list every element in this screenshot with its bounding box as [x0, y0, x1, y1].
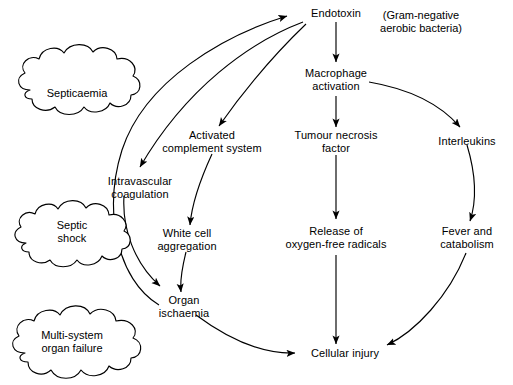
cloud-label-septic-shock: Septic shock	[57, 219, 88, 245]
edge-macrophage-to-interleukins	[369, 82, 460, 127]
node-macrophage-activation: Macrophage activation	[305, 67, 367, 92]
node-activated-complement-line1: Activated	[162, 129, 262, 142]
cloud-label-septicaemia: Septicaemia	[47, 87, 108, 100]
node-macrophage-activation-line1: Macrophage	[305, 67, 367, 80]
node-endotoxin-line1: Endotoxin	[311, 7, 361, 20]
node-white-cell-aggregation-line1: White cell	[157, 227, 216, 240]
node-radicals-line1: Release of	[285, 225, 386, 238]
node-macrophage-activation-line2: activation	[305, 79, 367, 92]
node-release-of-oxygen-free-radicals: Release of oxygen-free radicals	[285, 225, 386, 250]
caption-line1: (Gram-negative	[380, 9, 462, 22]
cloud-septic-shock-line2: shock	[57, 232, 88, 245]
node-cellular-injury: Cellular injury	[311, 347, 379, 360]
node-cellular-injury-line1: Cellular injury	[311, 347, 379, 360]
node-organ-ischaemia-line1: Organ	[159, 294, 209, 307]
caption-line2: aerobic bacteria)	[380, 22, 462, 35]
node-tumour-necrosis-factor: Tumour necrosis factor	[294, 129, 377, 154]
edge-endotoxin-to-activated-complement	[219, 24, 306, 126]
node-white-cell-aggregation: White cell aggregation	[157, 227, 216, 252]
cloud-mof-line2: organ failure	[41, 342, 103, 355]
edge-organ-ischaemia-to-cellular-injury	[196, 315, 295, 353]
edge-fever-to-cellular-injury	[387, 253, 466, 345]
node-interleukins-line1: Interleukins	[438, 135, 495, 148]
node-intravascular-coagulation-line1: Intravascular	[108, 175, 172, 188]
node-interleukins: Interleukins	[438, 135, 495, 148]
node-intravascular-coagulation-line2: coagulation	[108, 187, 172, 200]
node-fever-and-catabolism: Fever and catabolism	[440, 225, 494, 250]
cloud-septicaemia-line1: Septicaemia	[47, 87, 108, 100]
node-intravascular-coagulation: Intravascular coagulation	[108, 175, 172, 200]
node-endotoxin: Endotoxin	[311, 7, 361, 20]
node-fever-line1: Fever and	[440, 225, 494, 238]
cloud-label-multi-system-organ-failure: Multi-system organ failure	[41, 329, 103, 355]
node-organ-ischaemia: Organ ischaemia	[159, 294, 209, 319]
node-organ-ischaemia-line2: ischaemia	[159, 306, 209, 319]
cloud-septic-shock-line1: Septic	[57, 219, 88, 232]
diagram-connectors	[0, 0, 513, 385]
edge-white-cell-to-organ-ischaemia	[181, 252, 186, 292]
edge-complement-to-white-cell	[190, 154, 212, 225]
node-fever-line2: catabolism	[440, 237, 494, 250]
node-activated-complement-line2: complement system	[162, 141, 262, 154]
cloud-shape-septicaemia	[19, 45, 140, 115]
cloud-mof-line1: Multi-system	[41, 329, 103, 342]
node-white-cell-aggregation-line2: aggregation	[157, 239, 216, 252]
edge-interleukins-to-fever	[467, 145, 475, 221]
node-activated-complement-system: Activated complement system	[162, 129, 262, 154]
diagram-canvas: Septicaemia Septic shock Multi-system or…	[0, 0, 513, 385]
caption-gram-negative-aerobic-bacteria: (Gram-negative aerobic bacteria)	[380, 9, 462, 35]
node-tnf-line1: Tumour necrosis	[294, 129, 377, 142]
node-radicals-line2: oxygen-free radicals	[285, 237, 386, 250]
node-tnf-line2: factor	[294, 141, 377, 154]
